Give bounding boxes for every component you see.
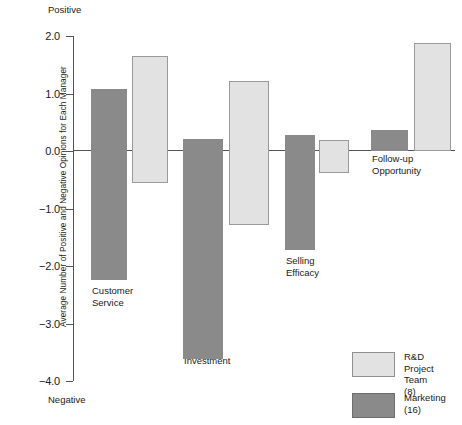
- y-tick: [66, 36, 73, 37]
- bar: [371, 130, 408, 151]
- y-tick: [66, 266, 73, 267]
- negative-caption: Negative: [48, 394, 86, 405]
- y-tick: [66, 151, 73, 152]
- y-tick: [66, 324, 73, 325]
- category-label: Customer Service: [92, 285, 133, 308]
- plot-area: 2.01.00.0−1.0−2.0−3.0−4.0: [73, 36, 455, 381]
- y-tick-label: −3.0: [39, 318, 60, 330]
- bar: [285, 135, 315, 250]
- category-label: Selling Efficacy: [286, 255, 319, 278]
- y-tick-label: 2.0: [45, 30, 60, 42]
- bar-chart: Average Number of Positive and Negative …: [0, 0, 462, 425]
- legend-item-rd: R&D Project Team (8): [352, 352, 434, 397]
- y-axis-line: [73, 36, 74, 381]
- y-tick: [66, 209, 73, 210]
- legend-label: Marketing (16): [404, 392, 446, 415]
- y-tick: [66, 94, 73, 95]
- y-tick-label: −2.0: [39, 260, 60, 272]
- y-tick-label: 0.0: [45, 145, 60, 157]
- bar: [183, 139, 223, 359]
- legend-swatch-icon: [352, 352, 395, 377]
- legend-label: R&D Project Team (8): [404, 351, 434, 397]
- positive-caption: Positive: [48, 4, 81, 15]
- bar: [91, 89, 127, 280]
- bar: [229, 81, 269, 224]
- y-tick-label: −1.0: [39, 203, 60, 215]
- y-tick-label: 1.0: [45, 88, 60, 100]
- y-tick: [66, 381, 73, 382]
- bar: [319, 140, 349, 173]
- category-label: Follow-up Opportunity: [372, 153, 421, 176]
- bar: [414, 43, 451, 151]
- legend-swatch-icon: [352, 393, 395, 418]
- bar: [132, 56, 168, 183]
- legend-item-marketing: Marketing (16): [352, 393, 446, 418]
- y-tick-label: −4.0: [39, 375, 60, 387]
